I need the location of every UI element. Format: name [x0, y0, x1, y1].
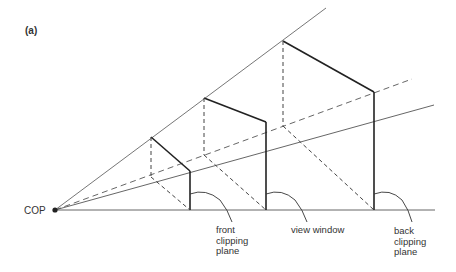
front-clipping-plane-label: front clipping plane	[216, 225, 248, 257]
front-leader-arc	[190, 192, 232, 222]
front-clipping-plane	[151, 137, 190, 210]
label-line: back	[394, 226, 426, 237]
panel-label: (a)	[25, 25, 37, 36]
cop-label: COP	[24, 205, 46, 216]
label-line: view window	[291, 225, 344, 236]
label-line: plane	[394, 247, 426, 258]
center-dashed-ray	[55, 79, 412, 210]
label-line: front	[216, 225, 248, 236]
cop-point	[52, 207, 57, 212]
back-clipping-plane-label: back clipping plane	[394, 226, 426, 258]
back-leader-arc	[374, 192, 412, 222]
view-leader-arc	[266, 192, 307, 222]
label-line: plane	[216, 246, 248, 257]
middle-ray	[55, 105, 434, 210]
view-window-label: view window	[291, 225, 344, 236]
